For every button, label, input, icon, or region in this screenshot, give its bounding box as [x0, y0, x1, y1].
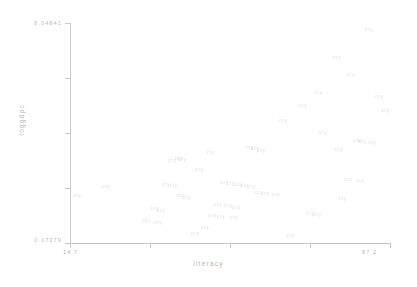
x-axis-tick	[230, 243, 231, 248]
data-point: cty	[255, 190, 264, 195]
data-point: cty	[375, 95, 384, 100]
data-point: cty	[344, 178, 353, 183]
x-axis-tick	[390, 243, 391, 248]
data-point: cty	[335, 148, 344, 153]
y-axis-title: loggdpc	[18, 104, 30, 136]
y-axis-tick	[65, 23, 70, 24]
data-point: cty	[319, 130, 328, 135]
data-point: cty	[143, 219, 152, 224]
data-point: cty	[232, 205, 241, 210]
data-point: cty	[226, 182, 235, 187]
data-point: cty	[251, 147, 260, 152]
data-point: cty	[73, 193, 82, 198]
x-axis-tick-label-max: 87.2	[362, 249, 377, 255]
data-point: cty	[333, 56, 342, 61]
data-point: cty	[368, 141, 377, 146]
data-point: cty	[207, 151, 216, 156]
data-point: cty	[178, 158, 187, 163]
data-point: cty	[381, 109, 390, 114]
data-point: cty	[235, 183, 244, 188]
data-point: cty	[314, 91, 323, 96]
y-axis-tick	[65, 133, 70, 134]
data-point: cty	[245, 145, 254, 150]
data-point: cty	[358, 140, 367, 145]
data-point: cty	[169, 184, 178, 189]
data-point: cty	[217, 215, 226, 220]
y-axis-tick-label-min: 0.17379	[34, 237, 62, 243]
data-point: cty	[261, 191, 270, 196]
data-point: cty	[240, 184, 249, 189]
data-point: cty	[248, 185, 257, 190]
x-axis-title: literacy	[0, 260, 417, 267]
data-point: cty	[175, 156, 184, 161]
y-axis-tick-label-max: 9.04841	[34, 20, 62, 26]
y-axis-tick	[65, 78, 70, 79]
data-point: cty	[272, 192, 281, 197]
data-point: cty	[313, 213, 322, 218]
data-point: cty	[220, 181, 229, 186]
data-point: cty	[338, 197, 347, 202]
x-axis-tick	[150, 243, 151, 248]
data-point: cty	[157, 208, 166, 213]
x-axis-tick-label-min: 14.7	[63, 249, 78, 255]
data-point: cty	[101, 185, 110, 190]
data-point: cty	[191, 232, 200, 237]
data-point: cty	[208, 213, 217, 218]
data-point: cty	[176, 194, 185, 199]
data-point: cty	[306, 212, 315, 217]
scatter-chart: 9.04841 0.17379 14.7 87.2 literacy loggd…	[0, 0, 417, 287]
data-point: cty	[150, 207, 159, 212]
x-axis-tick	[70, 243, 71, 248]
data-point: cty	[229, 216, 238, 221]
data-point: cty	[162, 183, 171, 188]
y-axis-tick	[65, 188, 70, 189]
data-point: cty	[257, 149, 266, 154]
data-point: cty	[347, 73, 356, 78]
data-point: cty	[286, 234, 295, 239]
y-axis-line	[70, 23, 71, 243]
data-point: cty	[299, 103, 308, 108]
data-point: cty	[353, 138, 362, 143]
x-axis-tick	[310, 243, 311, 248]
data-point: cty	[201, 226, 210, 231]
data-point: cty	[154, 220, 163, 225]
data-point: cty	[183, 195, 192, 200]
data-point: cty	[214, 202, 223, 207]
data-point: cty	[356, 179, 365, 184]
data-point: cty	[168, 159, 177, 164]
data-point: cty	[195, 168, 204, 173]
data-point: cty	[279, 119, 288, 124]
data-point: cty	[224, 204, 233, 209]
data-point: cty	[365, 27, 374, 32]
